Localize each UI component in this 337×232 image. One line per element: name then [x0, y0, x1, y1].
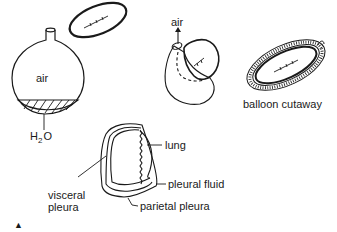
balloon-cutaway-caption: balloon cutaway [243, 98, 322, 110]
lung-pleura-drawing [78, 124, 166, 206]
visceral-pleura-label-line2: pleura [48, 201, 79, 213]
triangle-marker-icon: ▲ [14, 219, 23, 231]
water-label-h: H [30, 130, 38, 142]
balloon-drawing [65, 0, 131, 44]
balloon-push-drawing [165, 27, 219, 104]
water-label-sub: 2 [38, 136, 42, 145]
visceral-pleura-label-line1: visceral [48, 189, 85, 201]
balloon-cutaway-drawing [239, 29, 332, 101]
air-label: air [36, 72, 48, 84]
air-arrow-label: air [171, 16, 183, 28]
pleural-fluid-label: pleural fluid [168, 178, 224, 190]
water-label-o: O [43, 130, 52, 142]
lung-label: lung [165, 139, 186, 151]
water-label: H2O [30, 130, 52, 144]
parietal-pleura-label: parietal pleura [140, 200, 210, 212]
